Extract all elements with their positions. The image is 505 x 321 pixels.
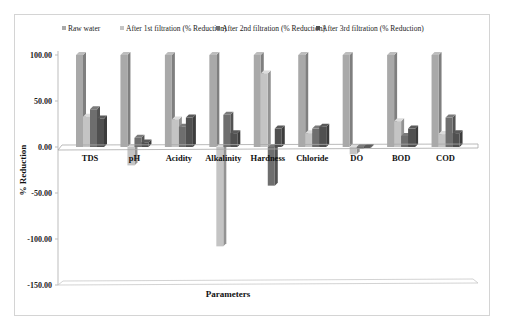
bar-chart: Raw waterAfter 1st filtration (% Reducti… <box>0 0 505 321</box>
y-axis: 100.0050.000.00-50.00-100.00-150.00 <box>27 51 58 290</box>
bar-group-tds <box>76 52 107 147</box>
bar-tds-series-1 <box>76 55 83 147</box>
floor-plane <box>58 279 478 285</box>
bar-side <box>193 115 196 147</box>
legend-entry: After 2nd filtration (% Reduction) <box>222 24 325 33</box>
x-axis-title: Parameters <box>206 289 251 299</box>
bar-ph-series-3 <box>134 138 141 147</box>
bar-acidity-series-1 <box>165 55 172 147</box>
y-tick-label: -100.00 <box>27 235 52 244</box>
bar-acidity-series-3 <box>179 127 186 147</box>
bar-hardness-series-2 <box>261 73 268 147</box>
bar-tds-series-4 <box>97 118 104 147</box>
legend-swatch <box>316 26 320 30</box>
bar-side <box>268 70 271 147</box>
bar-bod-series-3 <box>401 136 408 147</box>
bar-side <box>104 115 107 147</box>
legend-swatch <box>120 26 124 30</box>
y-tick-label: -150.00 <box>27 281 52 290</box>
bar-side <box>275 144 278 186</box>
bar-ph-series-1 <box>120 55 127 147</box>
bar-alkalinity-series-3 <box>223 115 230 147</box>
bar-side <box>127 52 130 147</box>
bar-do-series-4 <box>364 147 371 148</box>
x-tick-label: TDS <box>82 153 99 163</box>
legend: Raw waterAfter 1st filtration (% Reducti… <box>62 24 424 33</box>
legend-entry: After 3rd filtration (% Reduction) <box>322 24 424 33</box>
x-tick-label: DO <box>350 153 363 163</box>
bar-chloride-series-4 <box>319 127 326 147</box>
legend-entry: Raw water <box>68 24 101 33</box>
y-axis-title: % Reduction <box>18 145 28 196</box>
bar-group-cod <box>432 52 463 147</box>
x-tick-label: Hardness <box>251 153 286 163</box>
y-tick-label: -50.00 <box>31 189 52 198</box>
bar-chloride-series-2 <box>305 133 312 147</box>
legend-swatch <box>62 26 66 30</box>
bar-bod-series-1 <box>387 55 394 147</box>
bar-cod-series-3 <box>446 118 453 147</box>
bar-do-series-1 <box>343 55 350 147</box>
bar-cod-series-1 <box>432 55 439 147</box>
bar-group-ph <box>120 52 151 165</box>
x-tick-label: Acidity <box>166 153 193 163</box>
x-tick-label: BOD <box>392 153 410 163</box>
x-tick-label: pH <box>129 153 141 163</box>
bar-bod-series-2 <box>394 121 401 147</box>
x-tick-label: Chloride <box>296 153 328 163</box>
bar-tds-series-3 <box>90 109 97 147</box>
bar-chloride-series-1 <box>298 55 305 147</box>
bar-group-do <box>343 52 374 154</box>
bar-side <box>282 126 285 147</box>
bar-alkalinity-series-1 <box>209 55 216 147</box>
legend-swatch <box>216 26 220 30</box>
bar-side <box>326 124 329 147</box>
x-tick-label: Alkalinity <box>205 153 242 163</box>
bar-group-acidity <box>165 52 196 147</box>
legend-entry: After 1st filtration (% Reduction) <box>126 24 227 33</box>
bar-acidity-series-4 <box>186 118 193 147</box>
bar-side <box>216 52 219 147</box>
y-tick-label: 0.00 <box>38 143 52 152</box>
x-tick-label: COD <box>436 153 455 163</box>
bar-group-bod <box>387 52 418 147</box>
bar-acidity-series-2 <box>172 119 179 147</box>
bar-group-chloride <box>298 52 329 147</box>
y-tick-label: 100.00 <box>30 51 52 60</box>
bar-side <box>350 52 353 147</box>
bar-hardness-series-1 <box>254 55 261 147</box>
bar-tds-series-2 <box>83 117 90 147</box>
bar-group-hardness <box>254 52 285 186</box>
bar-cod-series-2 <box>439 134 446 147</box>
y-tick-label: 50.00 <box>34 97 52 106</box>
bar-cod-series-4 <box>453 133 460 147</box>
